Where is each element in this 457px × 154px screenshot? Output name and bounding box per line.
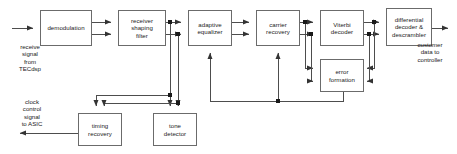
block-label-viterbi-decoder: Viterbidecoder [330,21,354,36]
block-receiver-shaping-filter[interactable]: receivershapingfilter [118,10,166,46]
block-timing-recovery[interactable]: timingrecovery [78,113,122,146]
wire-viterbi-to-differential [364,22,379,34]
block-label-carrier-recovery: carrierrecovery [265,21,291,36]
block-label-timing-recovery: timingrecovery [87,122,113,137]
wire-viterbi-tap-to-error-a [367,22,374,68]
block-label-receiver-shaping-filter: receivershapingfilter [130,17,154,39]
annotation-receive-signal-source: receivesignalfromTECdsp [6,43,54,73]
block-label-demodulation: demodulation [46,24,85,31]
block-label-error-formation: errorformation [328,68,356,83]
wire-equalizer-to-carrier [232,22,249,34]
block-tone-detector[interactable]: tonedetector [153,113,197,146]
wire-carrier-tap-to-error-b [311,34,313,81]
annotation-customer-data-output: customerdata tocontroller [404,41,456,63]
wire-carrier-tap-to-error-a [305,22,313,68]
block-error-formation[interactable]: errorformation [320,59,364,92]
block-label-adaptive-equalizer: adaptiveequalizer [196,21,223,36]
block-diagram: demodulation receivershapingfilter adapt… [0,0,457,154]
block-adaptive-equalizer[interactable]: adaptiveequalizer [188,10,232,46]
block-label-differential-decoder-descrambler: differentialdecoder &descrambler [391,16,427,38]
wire-viterbi-tap-to-error-b [367,34,369,81]
block-label-tone-detector: tonedetector [163,122,187,137]
block-carrier-recovery[interactable]: carrierrecovery [256,10,300,46]
annotation-clock-control-output: clockcontrolsignalto ASIC [8,98,56,128]
block-demodulation[interactable]: demodulation [40,10,92,46]
wire-demodulation-to-filter [92,22,111,34]
block-viterbi-decoder[interactable]: Viterbidecoder [320,10,364,46]
